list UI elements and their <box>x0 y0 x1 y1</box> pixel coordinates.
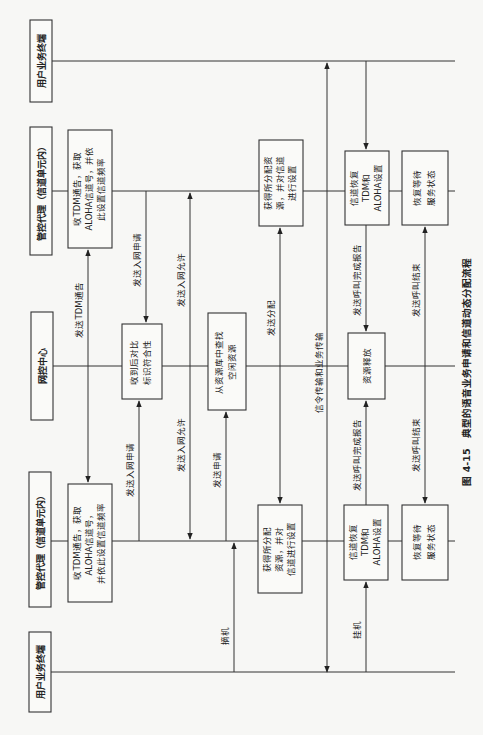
box-nc-release: 资源释放 <box>348 333 385 399</box>
box-nc-verify: 收到后对比 标识符合性 <box>122 324 162 399</box>
svg-text:发送申请: 发送申请 <box>212 452 222 488</box>
svg-text:发送分配: 发送分配 <box>266 300 276 336</box>
svg-text:挂机: 挂机 <box>352 621 362 639</box>
svg-text:获得所分配资: 获得所分配资 <box>263 156 273 210</box>
actor-control-agent-top: 管控代理（信道单元内） <box>30 127 52 255</box>
svg-text:ALOHA信道号，: ALOHA信道号， <box>84 510 94 575</box>
svg-text:获得所分配: 获得所分配 <box>262 527 272 572</box>
sequence-diagram: 用户业务终端 管控代理（信道单元内） 网控中心 管控代理（信道单元内） 用户业务… <box>0 0 483 735</box>
actor-label: 管控代理（信道单元内） <box>36 142 47 241</box>
svg-text:发送入网申请: 发送入网申请 <box>132 233 142 287</box>
svg-text:收TDM通告，获取: 收TDM通告，获取 <box>72 152 82 225</box>
msg-on-hook: 挂机 <box>352 582 366 672</box>
svg-text:源，并对信道: 源，并对信道 <box>275 156 285 210</box>
box-ca2-restore-wait: 恢复等待 服务状态 <box>402 151 448 225</box>
svg-text:发送入网允许: 发送入网允许 <box>176 253 186 307</box>
svg-text:恢复等待: 恢复等待 <box>412 524 422 560</box>
svg-text:资源释放: 资源释放 <box>362 348 372 384</box>
box-ca2-recv-tdm: 收TDM通告，获取 ALOHA信道号，并依 此设置信道频率 <box>68 130 112 248</box>
svg-text:收到后对比: 收到后对比 <box>129 340 139 385</box>
svg-text:信道恢复: 信道恢复 <box>348 524 358 560</box>
svg-text:发送呼叫结束: 发送呼叫结束 <box>411 418 421 472</box>
svg-text:ALOHA设置: ALOHA设置 <box>372 518 382 565</box>
svg-text:空闲资源: 空闲资源 <box>227 344 237 380</box>
svg-text:ALOHA信道号，并依: ALOHA信道号，并依 <box>84 147 94 230</box>
svg-text:并依此设置信道频率: 并依此设置信道频率 <box>96 503 106 584</box>
actor-label: 管控代理（信道单元内） <box>35 491 46 590</box>
actor-label: 网控中心 <box>37 348 48 384</box>
msg-call-end: 发送呼叫结束 发送呼叫结束 <box>411 227 425 503</box>
svg-text:TDM和: TDM和 <box>361 174 371 203</box>
svg-text:资源，并对: 资源，并对 <box>274 527 284 572</box>
svg-text:发送入网允许: 发送入网允许 <box>176 418 186 472</box>
svg-text:服务状态: 服务状态 <box>426 524 436 560</box>
svg-text:发送呼叫结束: 发送呼叫结束 <box>411 263 421 317</box>
actor-control-agent-bottom: 管控代理（信道单元内） <box>29 472 51 607</box>
msg-join-request-bottom: 发送入网申请 <box>125 401 139 541</box>
box-ca1-restore-wait: 恢复等待 服务状态 <box>402 505 448 580</box>
actor-user-terminal-top: 用户业务终端 <box>30 20 52 102</box>
svg-text:服务状态: 服务状态 <box>426 170 436 206</box>
actor-user-terminal-bottom: 用户业务终端 <box>29 632 51 712</box>
svg-text:发送呼叫完成报告: 发送呼叫完成报告 <box>352 419 362 491</box>
actor-network-center: 网控中心 <box>31 312 53 420</box>
svg-text:标识符合性: 标识符合性 <box>142 340 152 385</box>
box-nc-find: 从资源库中查找 空闲资源 <box>208 313 246 410</box>
box-ca1-restore-ch: 信道恢复 TDM和 ALOHA设置 <box>344 505 388 580</box>
svg-text:发送呼叫完成报告: 发送呼叫完成报告 <box>352 244 362 316</box>
svg-text:从资源库中查找: 从资源库中查找 <box>214 331 224 394</box>
box-ca2-restore-ch: 信道恢复 TDM和 ALOHA设置 <box>345 151 389 225</box>
svg-text:发送入网申请: 发送入网申请 <box>125 443 135 497</box>
msg-signaling: 信令传输和业务传输 <box>314 63 327 672</box>
msg-off-hook: 摘机 <box>220 543 234 672</box>
svg-text:信道恢复: 信道恢复 <box>349 170 359 206</box>
svg-text:收TDM通告，获取: 收TDM通告，获取 <box>72 506 82 579</box>
figure-caption: 图 4-15 典型的语音业务申请和信道动态分配流程 <box>461 258 472 485</box>
actor-label: 用户业务终端 <box>35 645 46 700</box>
msg-join-request-top: 发送入网申请 <box>132 191 146 322</box>
svg-text:进行设置: 进行设置 <box>287 165 297 201</box>
msg-send-apply: 发送申请 <box>212 412 226 541</box>
svg-text:信道进行设置: 信道进行设置 <box>286 522 296 576</box>
actor-label: 用户业务终端 <box>36 34 47 89</box>
svg-text:ALOHA设置: ALOHA设置 <box>373 164 383 211</box>
svg-text:此设置信道频率: 此设置信道频率 <box>96 158 106 221</box>
svg-text:发送TDM通告: 发送TDM通告 <box>74 282 84 337</box>
svg-text:信令传输和业务传输: 信令传输和业务传输 <box>314 332 324 413</box>
svg-text:TDM和: TDM和 <box>360 528 370 557</box>
svg-text:摘机: 摘机 <box>220 627 230 645</box>
svg-text:恢复等待: 恢复等待 <box>412 170 422 206</box>
box-ca1-recv-tdm: 收TDM通告，获取 ALOHA信道号， 并依此设置信道频率 <box>68 484 112 602</box>
box-ca2-get-alloc: 获得所分配资 源，并对信道 进行设置 <box>259 140 303 226</box>
box-ca1-get-alloc: 获得所分配 资源，并对 信道进行设置 <box>258 505 302 593</box>
